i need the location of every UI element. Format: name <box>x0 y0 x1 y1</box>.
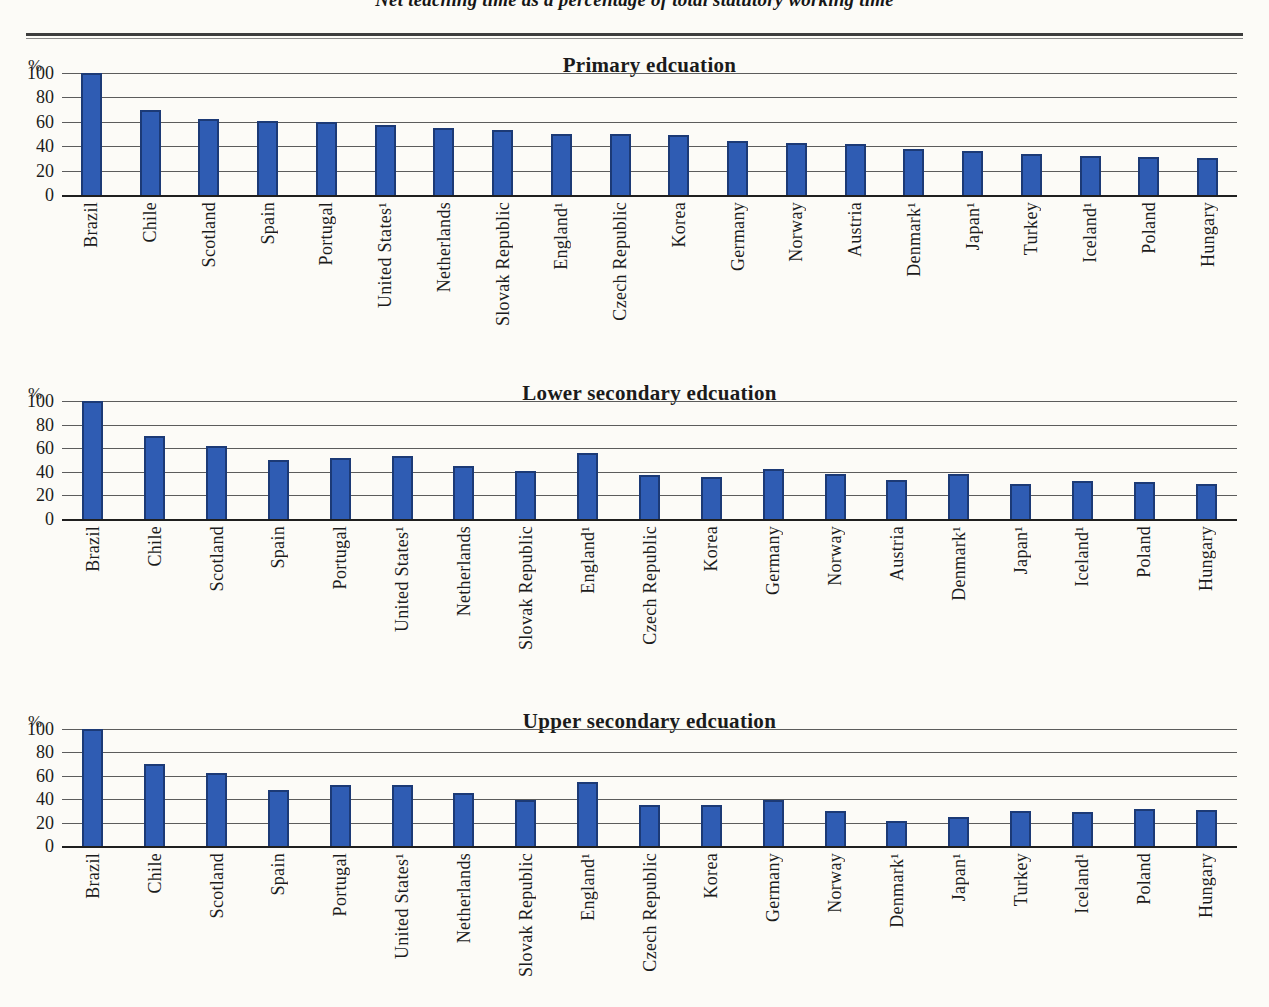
x-label-slot: Turkey <box>990 853 1052 1007</box>
bar-norway <box>825 811 846 846</box>
bar-slot <box>62 401 124 519</box>
x-axis-label-austria: Austria <box>845 202 865 257</box>
y-axis-tick: 40 <box>4 136 54 156</box>
x-axis-label-slovak-republic: Slovak Republic <box>493 202 513 326</box>
bar-slot <box>928 401 990 519</box>
bar-slot <box>742 729 804 846</box>
bar-korea <box>668 135 689 195</box>
x-label-slot: Iceland¹ <box>1052 526 1114 684</box>
x-axis-label-iceland: Iceland¹ <box>1072 853 1092 914</box>
chart-upper-secondary-edcuation: %Upper secondary edcuation020406080100Br… <box>0 695 1269 1007</box>
x-label-slot: Turkey <box>1002 202 1061 360</box>
x-label-slot: Czech Republic <box>619 526 681 684</box>
x-axis-label-iceland: Iceland¹ <box>1072 526 1092 587</box>
bar-slot <box>619 729 681 846</box>
x-axis-label-hungary: Hungary <box>1198 202 1218 267</box>
bar-slot <box>309 401 371 519</box>
x-label-slot: Slovak Republic <box>495 853 557 1007</box>
y-axis-tick: 20 <box>4 485 54 505</box>
x-axis-label-brazil: Brazil <box>83 853 103 899</box>
bar-slot <box>433 401 495 519</box>
x-axis-label-brazil: Brazil <box>81 202 101 248</box>
bar-slot <box>1113 729 1175 846</box>
x-label-slot: Poland <box>1113 526 1175 684</box>
y-axis-tick: 60 <box>4 438 54 458</box>
x-label-slot: Japan¹ <box>990 526 1052 684</box>
x-axis-label-czech-republic: Czech Republic <box>640 853 660 972</box>
y-axis-tick: 20 <box>4 161 54 181</box>
bar-slot <box>1120 73 1179 195</box>
x-label-slot: Scotland <box>186 853 248 1007</box>
x-label-slot: Norway <box>767 202 826 360</box>
bar-slot <box>990 401 1052 519</box>
x-axis-label-scotland: Scotland <box>199 202 219 267</box>
x-label-slot: Brazil <box>62 853 124 1007</box>
x-axis-label-germany: Germany <box>728 202 748 271</box>
chart-header: %Lower secondary edcuation <box>62 367 1237 401</box>
x-label-slot: Poland <box>1113 853 1175 1007</box>
x-axis-label-chile: Chile <box>140 202 160 243</box>
x-label-slot: England¹ <box>557 526 619 684</box>
x-axis-labels: BrazilChileScotlandSpainPortugalUnited S… <box>62 197 1237 360</box>
x-label-slot: United States¹ <box>356 202 415 360</box>
x-label-slot: Czech Republic <box>619 853 681 1007</box>
y-axis-tick: 60 <box>4 112 54 132</box>
x-axis-labels: BrazilChileScotlandSpainPortugalUnited S… <box>62 848 1237 1007</box>
x-label-slot: Japan¹ <box>943 202 1002 360</box>
x-label-slot: Portugal <box>309 526 371 684</box>
bar-slot <box>943 73 1002 195</box>
x-label-slot: Brazil <box>62 526 124 684</box>
x-axis-labels: BrazilChileScotlandSpainPortugalUnited S… <box>62 521 1237 684</box>
bar-slot <box>180 73 239 195</box>
x-axis-label-poland: Poland <box>1139 202 1159 254</box>
x-label-slot: Hungary <box>1175 853 1237 1007</box>
x-label-slot: Scotland <box>186 526 248 684</box>
x-label-slot: Germany <box>742 526 804 684</box>
x-label-slot: Poland <box>1120 202 1179 360</box>
bar-slot <box>186 401 248 519</box>
bar-slot <box>1052 729 1114 846</box>
bar-slot <box>1002 73 1061 195</box>
x-axis-label-korea: Korea <box>669 202 689 247</box>
bar-scotland <box>206 773 227 846</box>
bar-united-states <box>375 125 396 195</box>
x-label-slot: Austria <box>866 526 928 684</box>
x-axis-label-netherlands: Netherlands <box>454 526 474 616</box>
bar-slot <box>866 401 928 519</box>
bar-chile <box>144 436 165 519</box>
document-header: Net teaching time as a percentage of tot… <box>0 0 1269 13</box>
bar-slot <box>495 729 557 846</box>
x-axis-label-korea: Korea <box>701 526 721 571</box>
x-label-slot: Norway <box>804 526 866 684</box>
bar-czech-republic <box>639 475 660 519</box>
bar-slot <box>371 729 433 846</box>
x-axis-label-denmark: Denmark¹ <box>904 202 924 277</box>
bar-slot <box>804 729 866 846</box>
bar-scotland <box>206 446 227 519</box>
bar-slot <box>1052 401 1114 519</box>
bar-spain <box>257 121 278 195</box>
bar-austria <box>886 480 907 519</box>
x-label-slot: Denmark¹ <box>928 526 990 684</box>
x-label-slot: Korea <box>650 202 709 360</box>
x-axis-label-portugal: Portugal <box>330 526 350 589</box>
bar-slot <box>415 73 474 195</box>
x-axis-label-japan: Japan¹ <box>963 202 983 250</box>
document-subtitle: Net teaching time as a percentage of tot… <box>0 0 1269 11</box>
x-axis-label-brazil: Brazil <box>83 526 103 572</box>
x-label-slot: Germany <box>708 202 767 360</box>
x-axis-label-scotland: Scotland <box>207 526 227 591</box>
y-axis-tick: 0 <box>4 509 54 529</box>
bar-slot <box>557 401 619 519</box>
bar-england <box>577 453 598 519</box>
bar-slovak-republic <box>492 130 513 195</box>
x-axis-label-slovak-republic: Slovak Republic <box>516 526 536 650</box>
bar-slot <box>708 73 767 195</box>
x-label-slot: Iceland¹ <box>1061 202 1120 360</box>
x-axis-label-norway: Norway <box>825 526 845 586</box>
bar-slot <box>371 401 433 519</box>
bar-chile <box>140 110 161 195</box>
bars-row <box>62 73 1237 195</box>
x-label-slot: Hungary <box>1175 526 1237 684</box>
bar-netherlands <box>433 128 454 195</box>
